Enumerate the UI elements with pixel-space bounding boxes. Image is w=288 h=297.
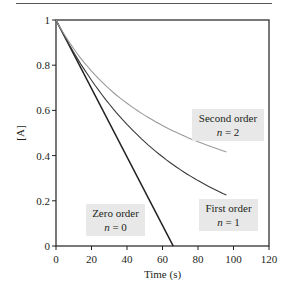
chart-canvas: 02040608010012000.20.40.60.81Time (s)[A] xyxy=(0,0,288,297)
y-axis-label: [A] xyxy=(14,125,26,140)
x-tick-label: 60 xyxy=(157,253,169,265)
y-tick-label: 0.8 xyxy=(36,59,50,71)
annotation-title: Zero order xyxy=(90,206,141,220)
x-tick-label: 100 xyxy=(225,253,242,265)
annotation-title: Second order xyxy=(196,111,260,125)
annotation-order: n = 2 xyxy=(196,125,260,139)
y-tick-label: 1 xyxy=(45,14,51,26)
annotation-second-order: Second order n = 2 xyxy=(192,109,264,141)
x-axis-label: Time (s) xyxy=(144,268,182,281)
annotation-title: First order xyxy=(203,201,254,215)
y-tick-label: 0.6 xyxy=(36,104,50,116)
x-tick-label: 80 xyxy=(193,253,205,265)
annotation-order: n = 1 xyxy=(203,215,254,229)
x-tick-label: 120 xyxy=(261,253,278,265)
x-tick-label: 40 xyxy=(122,253,134,265)
annotation-zero-order: Zero order n = 0 xyxy=(86,204,145,236)
x-tick-label: 20 xyxy=(86,253,98,265)
y-tick-label: 0.2 xyxy=(36,195,50,207)
annotation-first-order: First order n = 1 xyxy=(199,199,258,231)
y-tick-label: 0 xyxy=(45,240,51,252)
series-first-order xyxy=(56,20,226,195)
y-tick-label: 0.4 xyxy=(36,150,50,162)
annotation-order: n = 0 xyxy=(90,220,141,234)
x-tick-label: 0 xyxy=(53,253,59,265)
